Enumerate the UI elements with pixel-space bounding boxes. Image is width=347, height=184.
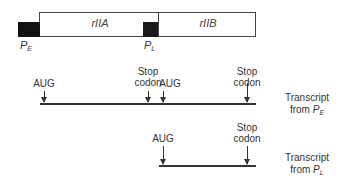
arrow-down-icon bbox=[163, 146, 164, 164]
gene-rIIB-label: rIIB bbox=[168, 17, 248, 29]
arrow-down-icon bbox=[163, 91, 164, 102]
transcript-PL-line bbox=[159, 165, 256, 167]
promoter-PE-label: PE bbox=[20, 39, 32, 52]
transcript-PL-label: Transcript from PL bbox=[276, 152, 338, 179]
arrow-down-icon bbox=[44, 91, 45, 102]
arrow-down-icon bbox=[148, 91, 149, 102]
gene-rIIA-label: rIIA bbox=[60, 17, 140, 29]
transcript-PE-line bbox=[40, 103, 256, 105]
marker-aug-1-label: AUG bbox=[29, 78, 59, 89]
marker-aug-2-label: AUG bbox=[155, 78, 185, 89]
promoter-PE-block bbox=[18, 22, 40, 37]
arrow-down-icon bbox=[247, 146, 248, 164]
marker-aug-3-label: AUG bbox=[148, 133, 178, 144]
promoter-PL-label: PL bbox=[144, 39, 155, 52]
promoter-PL-block bbox=[143, 22, 158, 37]
arrow-down-icon bbox=[247, 83, 248, 102]
transcript-PE-label: Transcript from PE bbox=[276, 92, 338, 119]
marker-stop-3-label: Stop codon bbox=[227, 122, 267, 144]
